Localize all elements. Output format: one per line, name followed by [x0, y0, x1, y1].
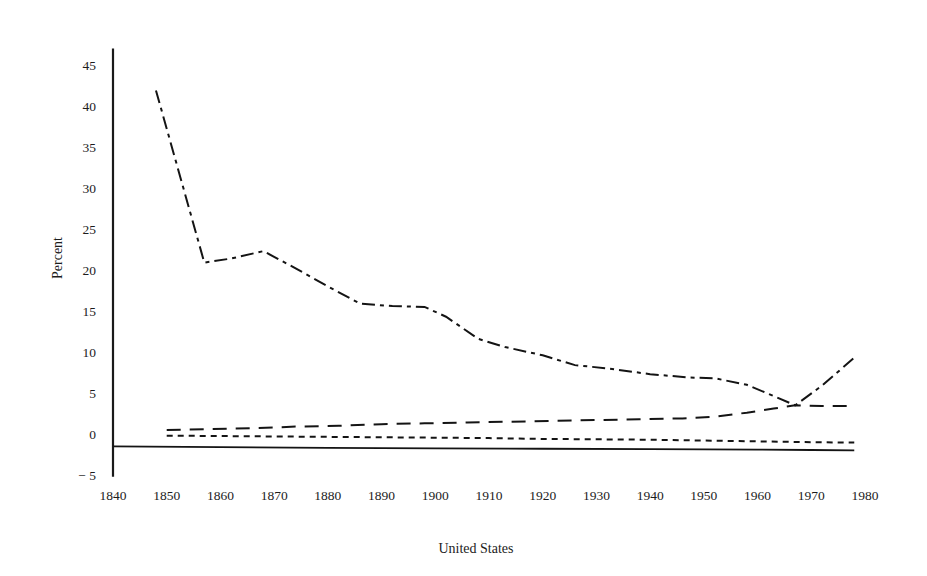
- y-tick-label: 15: [83, 304, 97, 319]
- x-tick-label: 1850: [153, 488, 180, 503]
- y-tick-label: 25: [83, 222, 97, 237]
- x-tick-label: 1970: [798, 488, 825, 503]
- series-long-dash-lower: [167, 405, 855, 430]
- y-axis-tick-labels: − 5051015202530354045: [78, 58, 96, 483]
- y-tick-label: 5: [89, 386, 96, 401]
- x-tick-label: 1980: [852, 488, 879, 503]
- x-tick-label: 1920: [529, 488, 556, 503]
- x-tick-label: 1890: [368, 488, 395, 503]
- data-series-group: [113, 90, 854, 450]
- y-tick-label: 20: [83, 263, 97, 278]
- x-axis-tick-labels: 1840185018601870188018901900191019201930…: [100, 488, 879, 503]
- y-axis-title: Percent: [50, 237, 65, 279]
- x-tick-label: 1960: [744, 488, 771, 503]
- y-tick-label: 0: [89, 427, 96, 442]
- x-tick-label: 1900: [422, 488, 449, 503]
- x-axis-title: United States: [438, 541, 513, 556]
- y-tick-label: 45: [83, 58, 97, 73]
- x-tick-label: 1910: [476, 488, 503, 503]
- line-chart: − 5051015202530354045 184018501860187018…: [0, 0, 927, 576]
- x-tick-label: 1950: [690, 488, 717, 503]
- x-tick-label: 1840: [100, 488, 127, 503]
- y-tick-label: − 5: [78, 468, 96, 483]
- x-tick-label: 1880: [314, 488, 341, 503]
- x-tick-label: 1860: [207, 488, 234, 503]
- y-tick-label: 10: [83, 345, 97, 360]
- series-solid-baseline: [113, 446, 854, 450]
- x-tick-label: 1870: [261, 488, 288, 503]
- x-tick-label: 1930: [583, 488, 610, 503]
- y-tick-label: 40: [83, 99, 97, 114]
- chart-figure: − 5051015202530354045 184018501860187018…: [0, 0, 927, 576]
- x-tick-label: 1940: [637, 488, 664, 503]
- y-tick-label: 30: [83, 181, 97, 196]
- y-tick-label: 35: [83, 140, 97, 155]
- series-dash-dot-upper: [156, 90, 854, 405]
- series-short-dash-lower: [167, 436, 855, 443]
